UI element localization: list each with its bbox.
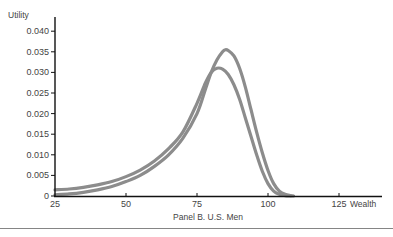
x-tick-label: 50 xyxy=(121,199,131,209)
chart-caption: Panel B. U.S. Men xyxy=(173,212,243,222)
y-tick-label: 0.015 xyxy=(26,129,49,139)
y-tick-label: 0.040 xyxy=(26,26,49,36)
x-tick-label: 125 xyxy=(331,199,346,209)
utility-chart: 00.0050.0100.0150.0200.0250.0300.0350.04… xyxy=(0,0,393,237)
y-tick-label: 0.035 xyxy=(26,47,49,57)
x-ticks: 255075100125 xyxy=(50,193,347,209)
y-ticks: 00.0050.0100.0150.0200.0250.0300.0350.04… xyxy=(26,26,55,201)
y-axis-title: Utility xyxy=(8,10,30,20)
y-tick-label: 0.020 xyxy=(26,109,49,119)
x-tick-label: 100 xyxy=(260,199,275,209)
y-tick-label: 0.005 xyxy=(26,170,49,180)
y-tick-label: 0.025 xyxy=(26,88,49,98)
x-axis-title: Wealth xyxy=(350,199,377,209)
y-tick-label: 0 xyxy=(44,191,49,201)
axes xyxy=(54,17,382,197)
y-tick-label: 0.030 xyxy=(26,67,49,77)
utility-curve-2 xyxy=(55,50,294,196)
x-tick-label: 75 xyxy=(192,199,202,209)
plot-curves xyxy=(55,50,294,196)
y-tick-label: 0.010 xyxy=(26,150,49,160)
x-tick-label: 25 xyxy=(50,199,60,209)
